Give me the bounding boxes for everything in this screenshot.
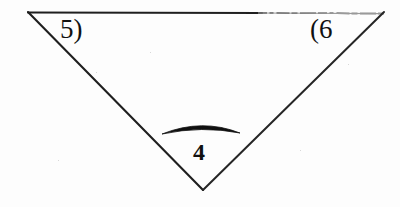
triangle-left-edge bbox=[28, 12, 203, 190]
right-vertex-label: (6 bbox=[310, 16, 333, 43]
left-vertex-label: 5) bbox=[60, 16, 83, 43]
triangle-right-edge bbox=[203, 12, 384, 190]
figure-canvas: 5) (6 4 bbox=[0, 0, 400, 207]
angle-arc bbox=[162, 126, 240, 134]
bottom-angle-label: 4 bbox=[193, 140, 205, 164]
